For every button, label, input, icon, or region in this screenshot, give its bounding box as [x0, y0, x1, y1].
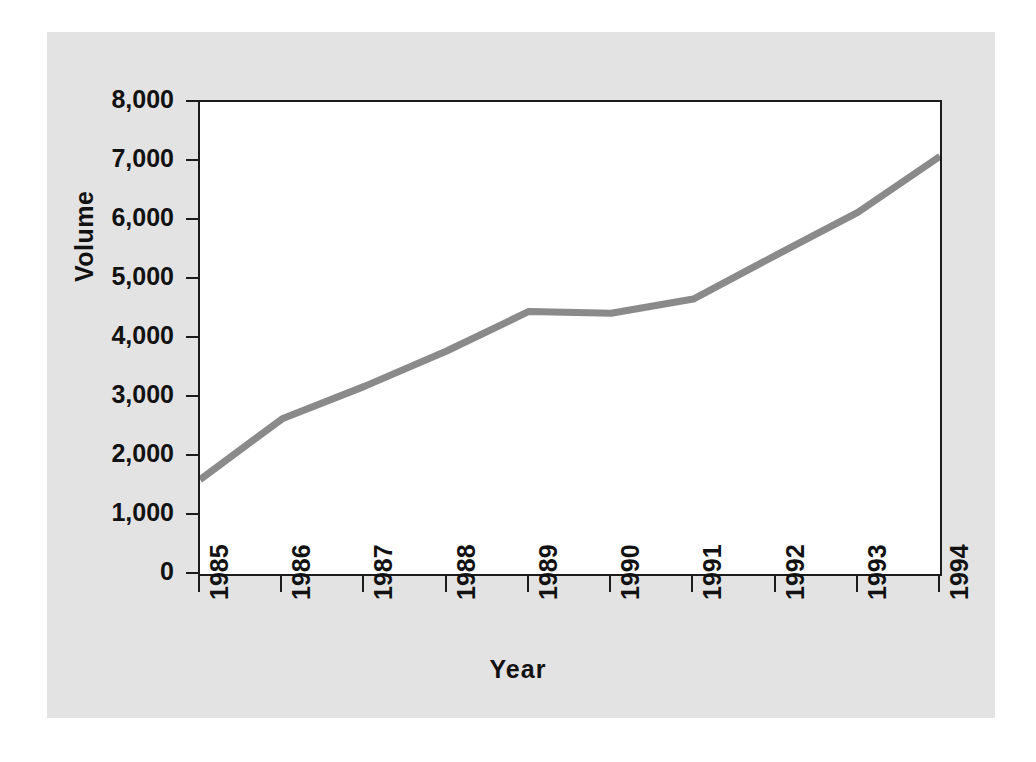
x-axis-tick-label: 1991: [700, 544, 725, 600]
y-axis-tick-labels: 8,0007,0006,0005,0004,0003,0002,0001,000…: [98, 0, 174, 762]
x-axis-tick-mark: [280, 574, 282, 592]
x-axis-tick-label: 1988: [454, 544, 479, 600]
x-axis-tick-label: 1989: [536, 544, 561, 600]
x-axis-tick-label: 1985: [207, 544, 232, 600]
chart-figure: Volume 8,0007,0006,0005,0004,0003,0002,0…: [0, 0, 1036, 762]
y-axis-tick-label: 7,000: [111, 146, 174, 171]
y-axis-title: Volume: [70, 191, 99, 282]
x-axis-tick-mark: [445, 574, 447, 592]
y-axis-tick-label: 3,000: [111, 382, 174, 407]
x-axis-tick-mark: [527, 574, 529, 592]
y-axis-tick-label: 1,000: [111, 500, 174, 525]
y-axis-tick-label: 0: [160, 559, 174, 584]
y-axis-tick-label: 8,000: [111, 87, 174, 112]
x-axis-title: Year: [0, 655, 1036, 684]
x-axis-tick-label: 1987: [371, 544, 396, 600]
volume-line-series: [200, 156, 940, 479]
x-axis-tick-mark: [198, 574, 200, 592]
y-axis-tick-label: 6,000: [111, 205, 174, 230]
x-axis-tick-mark: [856, 574, 858, 592]
x-axis-tick-label: 1992: [783, 544, 808, 600]
plot-area: [198, 100, 942, 576]
x-axis-tick-label: 1993: [865, 544, 890, 600]
x-axis-tick-label: 1990: [618, 544, 643, 600]
x-axis-tick-mark: [609, 574, 611, 592]
x-axis-tick-mark: [938, 574, 940, 592]
x-axis-tick-mark: [691, 574, 693, 592]
x-axis-tick-label: 1994: [947, 544, 972, 600]
y-axis-tick-label: 4,000: [111, 323, 174, 348]
y-axis-tick-label: 2,000: [111, 441, 174, 466]
x-axis-tick-mark: [774, 574, 776, 592]
x-axis-tick-label: 1986: [289, 544, 314, 600]
y-axis-tick-label: 5,000: [111, 264, 174, 289]
x-axis-tick-mark: [362, 574, 364, 592]
data-line-svg: [200, 102, 940, 574]
